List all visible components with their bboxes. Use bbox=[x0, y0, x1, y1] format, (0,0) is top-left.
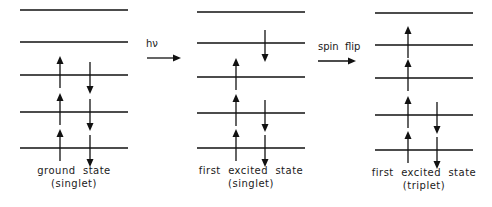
panel-singlet-excited bbox=[197, 12, 305, 163]
panel-sublabel-ground: (singlet) bbox=[14, 178, 134, 189]
transition-label: spin flip bbox=[318, 41, 360, 52]
panel-triplet-excited bbox=[375, 13, 473, 165]
panel-label-singlet-excited: first excited state bbox=[191, 165, 311, 176]
panel-label-triplet-excited: first excited state bbox=[364, 167, 484, 178]
panel-ground bbox=[20, 10, 128, 163]
panel-label-ground: ground state bbox=[14, 165, 134, 176]
panel-sublabel-triplet-excited: (triplet) bbox=[364, 180, 484, 191]
transition-label: hν bbox=[146, 38, 158, 49]
panel-sublabel-singlet-excited: (singlet) bbox=[191, 178, 311, 189]
